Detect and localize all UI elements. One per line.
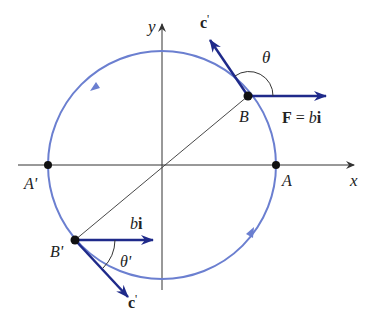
point-B — [244, 92, 253, 101]
force-i: i — [317, 109, 322, 126]
c-top: c — [200, 14, 207, 31]
label-c-prime-top: c' — [200, 12, 209, 31]
label-theta: θ — [262, 48, 270, 67]
c-top-prime: ' — [207, 12, 209, 26]
label-c-prime-bottom: c' — [128, 292, 137, 311]
force-F: F — [282, 109, 292, 126]
label-B-prime: B' — [50, 243, 64, 260]
y-axis-label: y — [146, 17, 156, 36]
diagram-canvas: y x A A' B B' θ θ' F = bi bi c' c' — [0, 0, 382, 323]
bi-i: i — [138, 215, 143, 232]
label-B: B — [239, 108, 249, 125]
label-A: A — [281, 172, 292, 189]
force-equals: = — [292, 109, 309, 126]
label-A-prime: A' — [23, 175, 38, 192]
point-B-prime — [71, 236, 80, 245]
label-theta-prime: θ' — [120, 253, 132, 270]
label-force: F = bi — [282, 109, 322, 126]
x-axis-label: x — [349, 171, 358, 190]
circle-direction-arrow-icon — [90, 82, 100, 91]
point-A-prime — [44, 161, 52, 169]
c-bottom: c — [128, 294, 135, 311]
force-b: b — [309, 109, 317, 126]
label-bi: bi — [130, 215, 143, 232]
c-bottom-prime: ' — [135, 292, 137, 306]
bi-b: b — [130, 215, 138, 232]
c-prime-vector-top — [210, 40, 248, 96]
point-A — [272, 161, 280, 169]
